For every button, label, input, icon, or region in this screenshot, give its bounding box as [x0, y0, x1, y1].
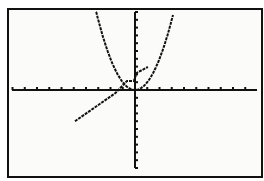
graph-plot: [0, 0, 264, 181]
curves: [75, 12, 173, 121]
